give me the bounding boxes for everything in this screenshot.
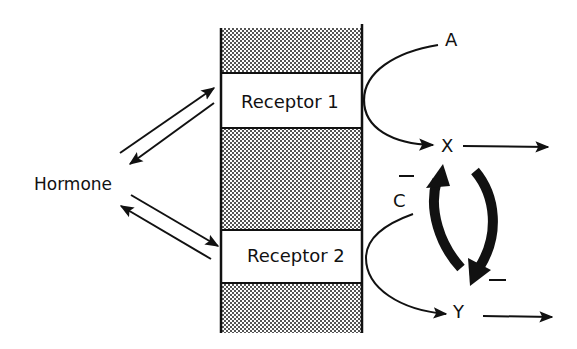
membrane-segment-middle xyxy=(221,128,362,230)
cell-membrane xyxy=(221,24,362,333)
arrow-A-to-X xyxy=(364,45,438,145)
label-A: A xyxy=(445,29,458,50)
feedback-arrow-Y-to-X xyxy=(426,164,461,268)
hormone-label: Hormone xyxy=(34,174,112,194)
label-Y: Y xyxy=(452,301,465,322)
membrane-segment-top xyxy=(221,28,362,73)
hormone-receptor1-arrows xyxy=(120,88,214,164)
arrow-receptor2-to-hormone xyxy=(121,206,211,259)
arrow-Y-output xyxy=(483,316,552,317)
arrow-receptor1-to-hormone xyxy=(130,103,214,164)
receptor1-label: Receptor 1 xyxy=(241,91,339,112)
hormone-receptor2-arrows xyxy=(121,195,218,259)
receptor2-label: Receptor 2 xyxy=(247,245,345,266)
arrow-hormone-to-receptor1 xyxy=(120,88,214,153)
arrow-X-output xyxy=(463,146,548,147)
membrane-segment-bottom xyxy=(221,283,362,333)
label-X: X xyxy=(441,135,453,156)
diagram-canvas: Receptor 1 Receptor 2 Hormone A X C Y xyxy=(0,0,577,349)
label-C: C xyxy=(393,190,406,211)
feedback-arrow-X-to-Y xyxy=(468,171,493,286)
